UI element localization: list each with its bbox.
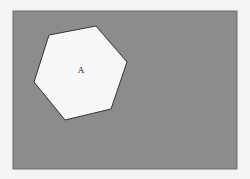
hexagon-label: A [78, 65, 85, 75]
diagram-canvas: A [0, 0, 250, 179]
